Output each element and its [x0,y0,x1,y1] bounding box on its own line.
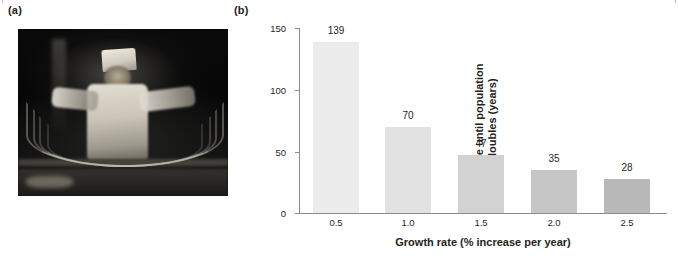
photo-flour-dust [26,176,72,188]
y-tick-label-0: 0 [260,208,286,219]
bar-value-1: 70 [385,110,431,121]
bar-value-3: 35 [531,153,577,164]
x-axis-line [299,213,667,214]
bar-0[interactable] [313,42,359,213]
y-tick-label-150: 150 [260,23,286,34]
panel-label-a: (a) [8,4,22,16]
bar-group-3: 35 [531,28,577,213]
page-margin-guide-left [2,0,3,260]
bar-group-4: 28 [604,28,650,213]
x-axis-title: Growth rate (% increase per year) [299,236,667,248]
y-axis-title: Time until population doubles (years) [473,0,497,24]
photograph-panel [18,29,228,196]
bar-1[interactable] [385,127,431,213]
bar-value-0: 139 [313,25,359,36]
bar-group-2: 47 [458,28,504,213]
x-tick-label-3: 2.0 [524,217,584,228]
bar-value-2: 47 [458,138,504,149]
x-tick-label-2: 1.5 [451,217,511,228]
x-tick-label-4: 2.5 [597,217,657,228]
y-tick-label-100: 100 [260,85,286,96]
bar-3[interactable] [531,170,577,213]
photo-shelf [18,159,228,166]
bar-4[interactable] [604,179,650,213]
plot-area: 139 70 47 35 28 [299,28,664,213]
bar-chart: Time until population doubles (years) 15… [234,0,678,260]
noodle-maker-photo [18,29,228,196]
bar-value-4: 28 [604,162,650,173]
x-tick-label-1: 1.0 [378,217,438,228]
y-tick-label-50: 50 [260,147,286,158]
bar-group-1: 70 [385,28,431,213]
x-tick-label-0: 0.5 [306,217,366,228]
bar-2[interactable] [458,155,504,213]
bar-group-0: 139 [313,28,359,213]
